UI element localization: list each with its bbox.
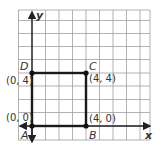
coord-a: (0, 0) [6,112,33,123]
label-b: B [89,129,97,142]
label-d: D [20,60,28,73]
coord-c: (4, 4) [89,73,116,84]
label-c: C [89,60,97,73]
point-c [83,70,88,75]
label-a: A [20,129,29,142]
point-a [29,123,34,128]
point-b [83,123,88,128]
y-axis-label: y [36,9,44,22]
coord-b: (4, 0) [89,113,116,124]
coord-d: (0, 4) [6,75,33,86]
coordinate-plane: y x D (0, 4) C (4, 4) (0, 0) A (4, 0) B [0,0,160,150]
x-axis-label: x [144,129,153,142]
grid [18,10,150,140]
